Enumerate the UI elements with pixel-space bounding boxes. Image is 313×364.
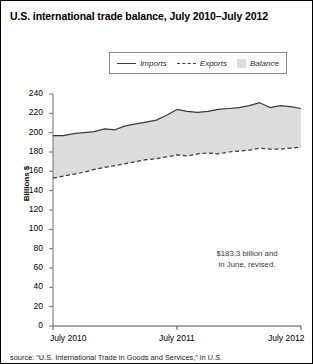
x-axis-tick-label: July 2011: [159, 333, 195, 343]
y-axis-tick-label: 220: [15, 107, 43, 117]
chart-annotation: $183.3 billion and in June, revised.: [197, 249, 297, 270]
y-axis-tick-label: 20: [15, 301, 43, 311]
y-axis-tick-label: 180: [15, 146, 43, 156]
source-note: source: “U.S. International Trade in Goo…: [10, 353, 310, 362]
plot-svg: [1, 1, 313, 364]
annotation-line-2: in June, revised.: [219, 260, 276, 269]
y-axis-tick-label: 40: [15, 281, 43, 291]
balance-area: [53, 103, 301, 178]
source-text: source: “U.S. International Trade in Goo…: [10, 353, 208, 362]
y-axis-tick-label: 240: [15, 88, 43, 98]
y-axis-tick-label: 120: [15, 204, 43, 214]
y-axis-tick-label: 0: [15, 320, 43, 330]
x-axis-tick-label: July 2012: [268, 333, 304, 343]
y-axis-tick-label: 140: [15, 185, 43, 195]
y-axis-tick-label: 60: [15, 262, 43, 272]
source-publication: U.S.: [208, 353, 222, 362]
y-axis-tick-label: 200: [15, 127, 43, 137]
y-axis-tick-label: 80: [15, 243, 43, 253]
y-axis-tick-label: 100: [15, 223, 43, 233]
chart-figure: U.S. international trade balance, July 2…: [0, 0, 313, 364]
plot-area: [1, 1, 313, 364]
annotation-line-1: $183.3 billion and: [216, 249, 277, 258]
x-axis-tick-label: July 2010: [50, 333, 86, 343]
y-axis-tick-label: 160: [15, 165, 43, 175]
